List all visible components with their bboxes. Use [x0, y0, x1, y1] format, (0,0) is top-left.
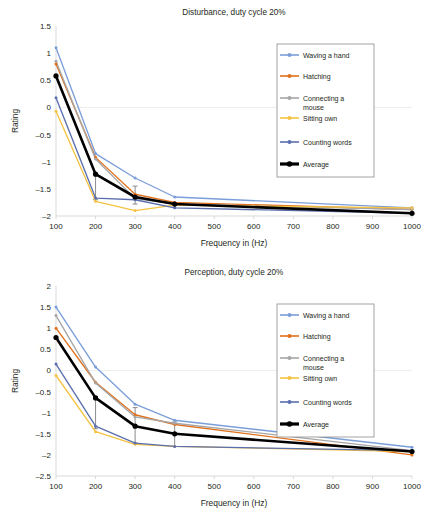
data-point	[134, 209, 137, 212]
x-tick-label: 100	[49, 482, 63, 491]
data-point	[55, 306, 58, 309]
legend-label: Counting words	[303, 139, 352, 147]
data-point	[55, 96, 58, 99]
x-tick-label: 700	[287, 482, 301, 491]
data-point	[409, 449, 414, 454]
data-point	[94, 152, 97, 155]
y-axis-title: Rating	[10, 109, 20, 134]
y-tick-label: 0	[47, 103, 52, 112]
data-point	[55, 314, 58, 317]
data-point	[55, 46, 58, 49]
data-point	[173, 419, 176, 422]
y-tick-label: –1	[42, 158, 51, 167]
legend-swatch-marker	[288, 74, 292, 78]
x-tick-label: 400	[168, 482, 182, 491]
data-point	[93, 172, 98, 177]
legend-label: Average	[303, 161, 329, 169]
x-tick-label: 1000	[403, 482, 421, 491]
data-point	[133, 424, 138, 429]
legend-label-cont: mouse	[303, 104, 324, 111]
data-point	[94, 197, 97, 200]
x-tick-label: 100	[49, 222, 63, 231]
data-point	[94, 158, 97, 161]
y-tick-label: –0.5	[35, 388, 51, 397]
y-tick-label: –2	[42, 212, 51, 221]
legend-swatch-marker	[287, 421, 293, 427]
y-tick-label: 0	[47, 366, 52, 375]
legend-label: Average	[303, 421, 329, 429]
y-tick-label: 1	[47, 49, 52, 58]
legend-label: Waving a hand	[303, 52, 350, 60]
x-tick-label: 800	[326, 222, 340, 231]
disturbance-chart-svg: Disturbance, duty cycle 20%1.510.50–0.5–…	[0, 0, 427, 260]
data-point	[172, 431, 177, 436]
x-axis-title: Frequency in (Hz)	[201, 238, 268, 248]
legend-label-cont: mouse	[303, 364, 324, 371]
data-point	[134, 403, 137, 406]
y-tick-label: 2	[47, 282, 52, 291]
x-tick-label: 900	[366, 482, 380, 491]
x-tick-label: 600	[247, 482, 261, 491]
legend-swatch-marker	[288, 313, 292, 317]
x-tick-label: 200	[89, 482, 103, 491]
legend-label: Waving a hand	[303, 312, 350, 320]
figure-container: Disturbance, duty cycle 20%1.510.50–0.5–…	[0, 0, 427, 520]
legend-box	[277, 44, 374, 177]
legend-label: Hatching	[303, 73, 331, 81]
data-point	[55, 363, 58, 366]
legend-label: Hatching	[303, 333, 331, 341]
legend-label: Sitting own	[303, 115, 337, 123]
y-axis-title: Rating	[10, 369, 20, 394]
y-tick-label: –2.5	[35, 472, 51, 481]
data-point	[53, 73, 58, 78]
legend-swatch-marker	[288, 376, 292, 380]
legend-label: Connecting a	[303, 355, 344, 363]
legend-swatch-marker	[288, 140, 292, 144]
legend-swatch-marker	[288, 400, 292, 404]
data-point	[94, 425, 97, 428]
data-point	[53, 335, 58, 340]
y-tick-label: 1.5	[40, 303, 52, 312]
data-point	[134, 177, 137, 180]
data-point	[55, 374, 58, 377]
legend-swatch-marker	[288, 356, 292, 360]
x-axis-title: Frequency in (Hz)	[201, 498, 268, 508]
y-tick-label: –0.5	[35, 131, 51, 140]
x-tick-label: 300	[128, 222, 142, 231]
legend-swatch-marker	[288, 334, 292, 338]
chart-title: Disturbance, duty cycle 20%	[182, 8, 285, 17]
y-tick-label: 1.5	[40, 22, 52, 31]
data-point	[55, 63, 58, 66]
data-point	[172, 201, 177, 206]
data-point	[94, 366, 97, 369]
legend-swatch-marker	[288, 96, 292, 100]
data-point	[173, 196, 176, 199]
legend-box	[277, 304, 374, 437]
x-tick-label: 800	[326, 482, 340, 491]
data-point	[411, 446, 414, 449]
y-tick-label: –1.5	[35, 430, 51, 439]
data-point	[173, 206, 176, 209]
data-point	[94, 200, 97, 203]
x-tick-label: 500	[208, 482, 222, 491]
chart-title: Perception, duty cycle 20%	[185, 268, 284, 277]
x-tick-label: 900	[366, 222, 380, 231]
x-tick-label: 300	[128, 482, 142, 491]
data-point	[134, 442, 137, 445]
data-point	[93, 395, 98, 400]
legend-swatch-marker	[287, 161, 293, 167]
y-tick-label: –2	[42, 451, 51, 460]
data-point	[94, 430, 97, 433]
data-point	[411, 206, 414, 209]
perception-chart-svg: Perception, duty cycle 20%21.510.50–0.5–…	[0, 260, 427, 520]
data-point	[55, 60, 58, 63]
y-tick-label: 0.5	[40, 345, 52, 354]
y-tick-label: 1	[47, 324, 52, 333]
data-point	[173, 445, 176, 448]
data-point	[94, 382, 97, 385]
x-tick-label: 700	[287, 222, 301, 231]
chart-panel-perception: Perception, duty cycle 20%21.510.50–0.5–…	[0, 260, 427, 520]
y-tick-label: 0.5	[40, 76, 52, 85]
x-tick-label: 1000	[403, 222, 421, 231]
data-point	[55, 327, 58, 330]
